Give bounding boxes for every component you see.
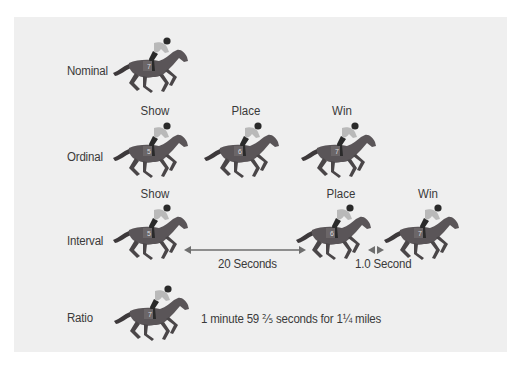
horse-icon: 6 xyxy=(198,118,284,184)
horse-icon: 7 xyxy=(107,33,193,99)
position-label-show: Show xyxy=(141,187,170,201)
ratio-annotation: 1 minute 59 ⅖ seconds for 1¼ miles xyxy=(201,311,381,326)
position-label-win: Win xyxy=(418,187,438,201)
horse-icon: 7 xyxy=(295,118,381,184)
row-label-interval: Interval xyxy=(67,234,103,248)
horse-icon: 7 xyxy=(108,281,194,347)
interval-gap-label: 20 Seconds xyxy=(218,257,277,271)
svg-text:5: 5 xyxy=(147,148,151,155)
position-label-win: Win xyxy=(332,104,352,118)
position-label-place: Place xyxy=(327,187,356,201)
row-label-ratio: Ratio xyxy=(67,311,93,325)
svg-text:7: 7 xyxy=(335,148,339,155)
position-label-show: Show xyxy=(141,104,170,118)
svg-text:7: 7 xyxy=(148,311,152,318)
row-label-ordinal: Ordinal xyxy=(67,150,103,164)
horse-icon: 5 xyxy=(107,200,193,266)
horse-icon: 5 xyxy=(107,118,193,184)
svg-text:6: 6 xyxy=(330,230,334,237)
svg-text:6: 6 xyxy=(238,148,242,155)
double-arrow-icon xyxy=(368,245,384,255)
svg-text:7: 7 xyxy=(147,63,151,70)
interval-gap-label: 1.0 Second xyxy=(355,257,411,271)
row-label-nominal: Nominal xyxy=(67,64,108,78)
position-label-place: Place xyxy=(232,104,261,118)
double-arrow-icon xyxy=(184,245,306,255)
svg-text:5: 5 xyxy=(147,230,151,237)
svg-text:7: 7 xyxy=(418,230,422,237)
